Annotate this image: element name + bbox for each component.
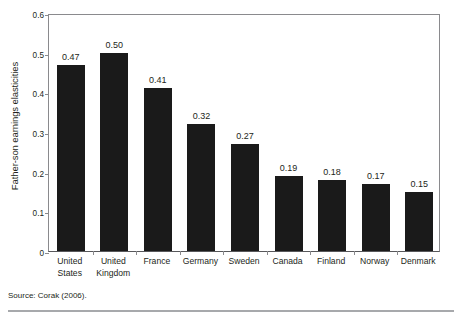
- x-category-label-line: Finland: [309, 256, 353, 268]
- x-category-label-line: Kingdom: [92, 268, 136, 280]
- figure-container: Father-son earnings elasticities 0.470.5…: [0, 0, 462, 318]
- x-category-label-line: Denmark: [396, 256, 440, 268]
- bar-group[interactable]: 0.50: [93, 15, 137, 251]
- x-category-label-line: United: [48, 256, 92, 268]
- x-category-label-line: United: [92, 256, 136, 268]
- bar-group[interactable]: 0.47: [49, 15, 93, 251]
- x-category-label: UnitedKingdom: [92, 256, 136, 279]
- bar[interactable]: [187, 124, 215, 251]
- x-category-label: UnitedStates: [48, 256, 92, 279]
- x-category-label: Germany: [179, 256, 223, 268]
- x-category-label: Finland: [309, 256, 353, 268]
- x-category-label: France: [135, 256, 179, 268]
- bottom-rule: [8, 310, 454, 312]
- y-tick-mark: [45, 55, 49, 56]
- x-category-label-line: Norway: [353, 256, 397, 268]
- bar-value-label: 0.41: [149, 75, 167, 85]
- x-tick-mark: [93, 251, 94, 255]
- x-axis-labels: UnitedStatesUnitedKingdomFranceGermanySw…: [48, 256, 440, 290]
- bar-value-label: 0.17: [367, 171, 385, 181]
- x-category-label-line: France: [135, 256, 179, 268]
- bar-value-label: 0.27: [236, 131, 254, 141]
- y-tick-mark: [45, 134, 49, 135]
- x-tick-mark: [397, 251, 398, 255]
- bar-group[interactable]: 0.19: [267, 15, 311, 251]
- bar-value-label: 0.50: [106, 40, 124, 50]
- y-tick-mark: [45, 94, 49, 95]
- x-tick-mark: [223, 251, 224, 255]
- bar-group[interactable]: 0.18: [310, 15, 354, 251]
- y-tick-mark: [45, 15, 49, 16]
- y-axis-title: Father-son earnings elasticities: [8, 0, 22, 252]
- bar-group[interactable]: 0.17: [354, 15, 398, 251]
- x-category-label: Sweden: [222, 256, 266, 268]
- bar[interactable]: [275, 176, 303, 251]
- bar-value-label: 0.32: [193, 111, 211, 121]
- bar[interactable]: [144, 88, 172, 251]
- y-tick-mark: [45, 253, 49, 254]
- x-tick-mark: [267, 251, 268, 255]
- bar-value-label: 0.18: [323, 167, 341, 177]
- bars-layer: 0.470.500.410.320.270.190.180.170.15: [49, 15, 439, 251]
- x-category-label: Norway: [353, 256, 397, 268]
- bar-value-label: 0.15: [410, 179, 428, 189]
- plot-area: 0.470.500.410.320.270.190.180.170.15 00.…: [48, 14, 440, 252]
- bar-value-label: 0.19: [280, 163, 298, 173]
- x-tick-mark: [180, 251, 181, 255]
- source-note: Source: Corak (2006).: [8, 291, 87, 300]
- y-tick-mark: [45, 174, 49, 175]
- bar[interactable]: [100, 53, 128, 251]
- y-tick-mark: [45, 213, 49, 214]
- x-tick-mark: [310, 251, 311, 255]
- x-category-label-line: Sweden: [222, 256, 266, 268]
- bar-value-label: 0.47: [62, 52, 80, 62]
- bar-group[interactable]: 0.32: [180, 15, 224, 251]
- bar[interactable]: [57, 65, 85, 251]
- bar-group[interactable]: 0.27: [223, 15, 267, 251]
- x-category-label-line: Germany: [179, 256, 223, 268]
- bar[interactable]: [318, 180, 346, 251]
- x-category-label: Canada: [266, 256, 310, 268]
- bar-group[interactable]: 0.41: [136, 15, 180, 251]
- x-category-label-line: States: [48, 268, 92, 280]
- bar-group[interactable]: 0.15: [397, 15, 441, 251]
- x-tick-mark: [136, 251, 137, 255]
- x-category-label-line: Canada: [266, 256, 310, 268]
- x-tick-mark: [354, 251, 355, 255]
- bar[interactable]: [362, 184, 390, 251]
- bar[interactable]: [405, 192, 433, 252]
- x-category-label: Denmark: [396, 256, 440, 268]
- bar[interactable]: [231, 144, 259, 251]
